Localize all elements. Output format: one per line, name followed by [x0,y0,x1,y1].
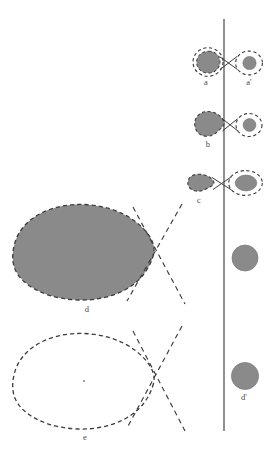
body-a-group [193,48,262,77]
label-a: a [204,78,208,87]
label-b: b [206,140,210,149]
label-c: c [197,196,201,205]
body-d-group [13,204,154,300]
body-c-group [188,171,262,196]
body-c-left-core [188,174,214,191]
label-a-prime: a' [246,78,252,87]
body-b-group [195,111,262,136]
body-b-right-core [243,119,256,132]
label-e: e [83,433,87,442]
spindle-e-lower [133,331,185,431]
figure-canvas: a a' b c d e d' [0,0,274,456]
spindle-e-upper [127,326,182,428]
label-d: d [85,305,89,314]
body-right-middle [232,245,258,271]
body-b-left-core [195,111,224,136]
figure-caption [0,451,274,456]
body-a-left-core [197,51,220,73]
figure-vector-layer [0,0,274,456]
body-d-core [13,204,154,300]
body-d-prime [231,362,258,389]
label-d-prime: d' [241,393,247,402]
body-e-group [13,333,154,429]
body-c-right-core [235,175,257,191]
body-a-right-core [243,56,256,69]
body-e-center-dot [83,380,85,382]
